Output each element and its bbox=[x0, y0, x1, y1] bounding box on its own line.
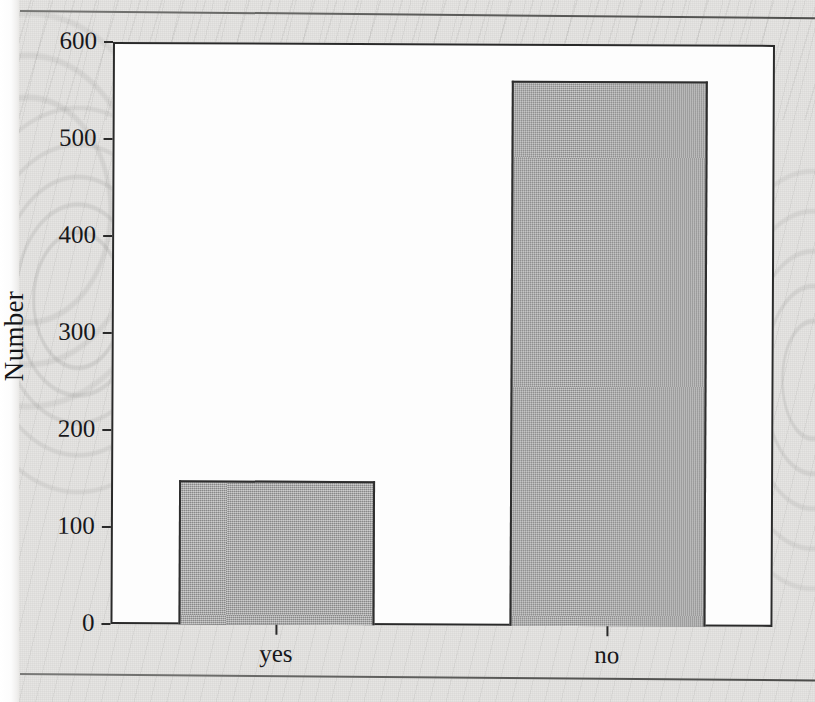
y-tick-label-300: 300 bbox=[58, 319, 96, 344]
bar-chart: 0100200300400500600 yesno bbox=[110, 42, 775, 627]
x-tick-label-yes: yes bbox=[259, 641, 292, 666]
y-tick-0: 0 bbox=[101, 623, 110, 625]
y-tick-100: 100 bbox=[102, 526, 111, 528]
x-tick-no bbox=[606, 626, 608, 636]
y-tick-600: 600 bbox=[104, 41, 113, 43]
y-tick-label-400: 400 bbox=[59, 222, 97, 247]
y-tick-label-0: 0 bbox=[82, 610, 95, 635]
bar-no bbox=[509, 81, 707, 627]
y-axis-title: Number bbox=[0, 291, 30, 381]
x-tick-label-no: no bbox=[594, 642, 619, 667]
y-tick-label-600: 600 bbox=[59, 28, 97, 53]
y-tick-label-100: 100 bbox=[57, 513, 95, 538]
bar-yes bbox=[178, 481, 375, 625]
y-tick-label-500: 500 bbox=[59, 125, 97, 150]
x-tick-yes bbox=[275, 625, 277, 635]
y-tick-400: 400 bbox=[103, 235, 112, 237]
y-tick-label-200: 200 bbox=[58, 416, 96, 441]
y-tick-200: 200 bbox=[102, 429, 111, 431]
y-tick-500: 500 bbox=[104, 138, 113, 140]
scanned-chart-page: Number 0100200300400500600 yesno bbox=[0, 0, 815, 702]
y-tick-300: 300 bbox=[103, 332, 112, 334]
